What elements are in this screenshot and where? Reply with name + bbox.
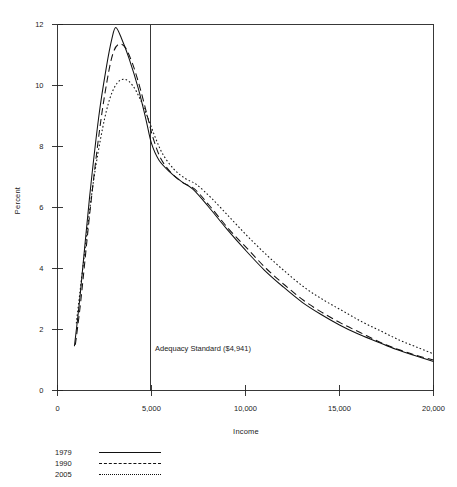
series-line-1979 [74,28,433,362]
legend-label-1979: 1979 [55,448,89,457]
y-tick-label: 0 [14,386,44,395]
y-tick-label: 2 [14,325,44,334]
x-tick-label: 5,000 [122,404,182,413]
y-tick-label: 8 [14,142,44,151]
x-axis-title: Income [176,427,316,436]
y-tick-label: 12 [14,20,44,29]
legend-item: 2005 [55,469,315,480]
legend-swatch-2005 [99,470,161,479]
y-tick-label: 6 [14,203,44,212]
legend-item: 1990 [55,458,315,469]
y-tick-label: 10 [14,81,44,90]
legend-item: 1979 [55,447,315,458]
income-distribution-chart [0,0,457,487]
y-axis-title: Percent [13,171,22,231]
plot-frame [58,25,434,391]
y-tick-label: 4 [14,264,44,273]
x-tick-label: 0 [28,404,88,413]
x-tick-label: 10,000 [216,404,276,413]
series-line-2005 [76,79,433,354]
series-line-1990 [75,44,433,360]
x-tick-label: 20,000 [404,404,457,413]
chart-figure: Percent Income 02468101205,00010,00015,0… [0,0,457,487]
adequacy-standard-label: Adequacy Standard ($4,941) [155,344,251,353]
x-tick-label: 15,000 [310,404,370,413]
legend-label-1990: 1990 [55,459,89,468]
chart-legend: 1979 1990 2005 [55,447,315,480]
legend-swatch-1990 [99,459,161,468]
legend-label-2005: 2005 [55,470,89,479]
legend-swatch-1979 [99,448,161,457]
data-series-group [74,28,433,362]
